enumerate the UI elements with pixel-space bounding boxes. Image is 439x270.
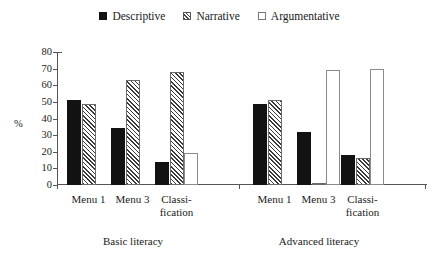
bar-argumentative-basic-2 [184, 153, 198, 185]
bar-descriptive-advanced-1 [297, 132, 311, 185]
y-tick-label: 80 [42, 47, 53, 58]
x-category-label: Menu 3 [302, 193, 336, 206]
bar-descriptive-basic-1 [111, 128, 125, 185]
bar-descriptive-advanced-0 [253, 104, 267, 185]
panel-label: Advanced literacy [279, 235, 359, 247]
bar-narrative-basic-1 [126, 80, 140, 185]
bar-descriptive-advanced-2 [341, 155, 355, 185]
hatched-square-icon [183, 12, 191, 20]
legend-label-descriptive: Descriptive [112, 10, 165, 22]
bars-layer [57, 52, 427, 185]
y-tick-label: 30 [42, 130, 53, 141]
y-tick-label: 40 [42, 113, 53, 124]
bar-descriptive-basic-0 [67, 100, 81, 185]
bar-narrative-advanced-2 [356, 158, 370, 185]
plot-area: 01020304050607080 [57, 52, 427, 185]
legend-item-narrative: Narrative [183, 10, 239, 22]
bar-narrative-advanced-1 [312, 183, 326, 185]
panel-label: Basic literacy [103, 235, 163, 247]
y-tick-label: 50 [42, 97, 53, 108]
y-tick-label: 70 [42, 63, 53, 74]
grouped-bar-chart: Descriptive Narrative Argumentative % 01… [0, 0, 439, 270]
axis-group-tick [239, 184, 240, 189]
axis-group-tick [57, 184, 58, 189]
bar-narrative-advanced-0 [268, 100, 282, 185]
axis-group-tick [425, 184, 426, 189]
y-tick-label: 10 [42, 163, 53, 174]
x-category-label: Menu 1 [258, 193, 292, 206]
y-axis-label: % [14, 118, 23, 129]
x-category-label: Menu 3 [116, 193, 150, 206]
y-tick-label: 0 [47, 180, 52, 191]
legend-label-narrative: Narrative [196, 10, 239, 22]
x-category-label: Classi- fication [160, 193, 194, 220]
bar-descriptive-basic-2 [155, 162, 169, 185]
y-tick-label: 60 [42, 80, 53, 91]
chart-legend: Descriptive Narrative Argumentative [0, 10, 439, 22]
filled-square-icon [99, 12, 107, 20]
y-tick-label: 20 [42, 147, 53, 158]
legend-label-argumentative: Argumentative [271, 10, 340, 22]
bar-argumentative-advanced-1 [326, 70, 340, 185]
empty-square-icon [258, 12, 266, 20]
legend-item-argumentative: Argumentative [258, 10, 340, 22]
x-category-label: Menu 1 [72, 193, 106, 206]
bar-narrative-basic-0 [82, 104, 96, 185]
legend-item-descriptive: Descriptive [99, 10, 165, 22]
bar-narrative-basic-2 [170, 72, 184, 185]
bar-argumentative-advanced-2 [370, 69, 384, 185]
x-category-label: Classi- fication [346, 193, 380, 220]
